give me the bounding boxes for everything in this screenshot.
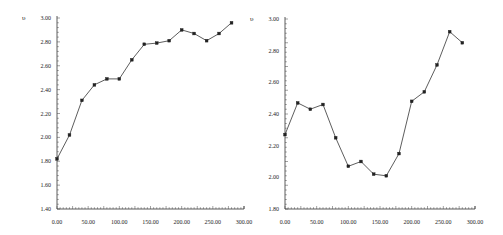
- y-axis-label: υ: [250, 15, 254, 23]
- y-tick-label: 2.60: [269, 79, 280, 85]
- x-tick-label: 0.00: [280, 219, 291, 225]
- data-point-marker: [436, 64, 439, 67]
- data-point-marker: [372, 173, 375, 176]
- data-point-marker: [81, 99, 84, 102]
- data-point-marker: [193, 32, 196, 35]
- data-point-marker: [347, 165, 350, 168]
- data-point-marker: [180, 29, 183, 32]
- x-tick-label: 300.00: [467, 219, 484, 225]
- x-tick-label: 150.00: [372, 219, 389, 225]
- y-tick-label: 1.80: [41, 158, 52, 164]
- y-tick-label: 2.80: [41, 39, 52, 45]
- y-tick-label: 2.40: [41, 87, 52, 93]
- x-tick-label: 0.00: [52, 219, 63, 225]
- data-point-marker: [205, 39, 208, 42]
- y-tick-label: 2.00: [41, 134, 52, 140]
- y-tick-label: 1.80: [269, 206, 280, 212]
- y-tick-label: 2.00: [269, 174, 280, 180]
- y-tick-label: 1.40: [41, 206, 52, 212]
- y-tick-label: 2.20: [269, 143, 280, 149]
- x-tick-label: 300.00: [236, 219, 253, 225]
- data-point-marker: [130, 58, 133, 61]
- data-point-marker: [118, 77, 121, 80]
- y-tick-label: 2.60: [41, 63, 52, 69]
- data-point-marker: [448, 30, 451, 33]
- y-tick-label: 1.60: [41, 182, 52, 188]
- y-tick-label: 3.00: [41, 15, 52, 21]
- x-tick-label: 150.00: [142, 219, 159, 225]
- data-point-marker: [105, 77, 108, 80]
- data-point-marker: [56, 157, 59, 160]
- x-tick-label: 250.00: [205, 219, 222, 225]
- data-point-marker: [168, 39, 171, 42]
- right-line-chart: 3.002.802.602.402.202.001.800.0050.00100…: [250, 15, 483, 225]
- data-point-marker: [155, 42, 158, 45]
- data-point-marker: [322, 103, 325, 106]
- x-tick-label: 50.00: [81, 219, 95, 225]
- y-axis-label: υ: [22, 14, 26, 22]
- data-point-marker: [93, 83, 96, 86]
- chart-canvas: 3.002.802.602.402.202.001.801.601.400.00…: [0, 0, 503, 235]
- data-point-marker: [410, 100, 413, 103]
- x-tick-label: 200.00: [403, 219, 420, 225]
- data-point-marker: [398, 152, 401, 155]
- y-tick-label: 2.20: [41, 111, 52, 117]
- data-point-marker: [143, 43, 146, 46]
- y-tick-label: 2.40: [269, 111, 280, 117]
- data-point-marker: [230, 21, 233, 24]
- x-tick-label: 50.00: [310, 219, 324, 225]
- data-point-marker: [68, 134, 71, 137]
- left-line-chart: 3.002.802.602.402.202.001.801.601.400.00…: [22, 14, 252, 225]
- data-point-marker: [334, 136, 337, 139]
- data-point-marker: [461, 41, 464, 44]
- data-point-marker: [385, 174, 388, 177]
- data-point-marker: [423, 90, 426, 93]
- y-tick-label: 2.80: [269, 48, 280, 54]
- x-tick-label: 200.00: [173, 219, 190, 225]
- data-point-marker: [309, 108, 312, 111]
- data-point-marker: [284, 133, 287, 136]
- data-point-marker: [360, 160, 363, 163]
- x-tick-label: 100.00: [340, 219, 357, 225]
- x-tick-label: 100.00: [111, 219, 128, 225]
- x-tick-label: 250.00: [435, 219, 452, 225]
- data-series-line: [285, 32, 462, 176]
- data-point-marker: [218, 32, 221, 35]
- data-point-marker: [296, 102, 299, 105]
- y-tick-label: 3.00: [269, 16, 280, 22]
